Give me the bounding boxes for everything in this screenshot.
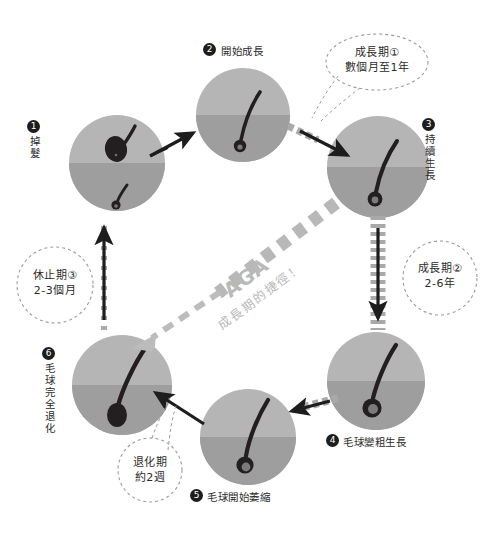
node-label-6: 毛球完全退化 — [43, 363, 54, 435]
callout-1-line-2: 數個月至1年 — [322, 61, 432, 76]
callout-text-3: 休止期③ 2-3個月 — [15, 269, 95, 299]
node-label-3: 持續生長 — [423, 134, 434, 182]
stage-circle-1 — [60, 115, 180, 233]
callout-4-line-1: 退化期 — [120, 456, 180, 471]
node-badge-1: 1 — [27, 120, 40, 133]
node-badge-5: 5 — [190, 489, 203, 502]
node-label-2: 開始成長 — [221, 43, 263, 58]
callout-2-line-1: 成長期② — [400, 262, 480, 277]
node-label-5: 毛球開始萎縮 — [207, 489, 270, 504]
stage-circle-6 — [66, 335, 191, 460]
callout-text-1: 成長期① 數個月至1年 — [322, 46, 432, 76]
callout-3-line-1: 休止期③ — [15, 269, 95, 284]
callout-text-2: 成長期② 2-6年 — [400, 262, 480, 292]
node-badge-6: 6 — [42, 347, 55, 360]
node-label-1: 掉髮 — [28, 136, 39, 160]
callout-4-line-2: 約2週 — [120, 471, 180, 486]
node-label-4: 毛球變粗生長 — [343, 434, 406, 449]
node-badge-3: 3 — [422, 118, 435, 131]
callout-2-line-2: 2-6年 — [400, 277, 480, 292]
hair-cycle-diagram: 1 掉髮 2 開始成長 3 持續生長 4 毛球變粗生長 5 毛球開始萎縮 6 毛… — [0, 0, 491, 533]
callout-text-4: 退化期 約2週 — [120, 456, 180, 486]
node-badge-2: 2 — [203, 43, 216, 56]
node-badge-4: 4 — [326, 434, 339, 447]
callout-1-line-1: 成長期① — [322, 46, 432, 61]
callout-3-line-2: 2-3個月 — [15, 284, 95, 299]
